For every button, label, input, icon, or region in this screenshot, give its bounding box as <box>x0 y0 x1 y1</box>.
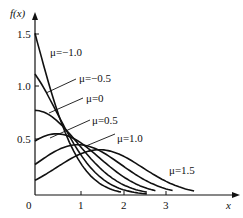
label-mu-minus-0.5: μ=−0.5 <box>79 72 112 84</box>
y-axis-label: f(x) <box>10 7 26 20</box>
label-mu-minus-1.0: μ=−1.0 <box>50 46 83 58</box>
chart: 0 1 2 3 x 0.5 1.0 1.5 f(x) μ=−1.0 μ=−0.5… <box>0 0 243 218</box>
x-tick-3: 3 <box>163 199 169 211</box>
x-tick-1: 1 <box>78 199 84 211</box>
x-axis-arrow-icon <box>232 192 240 198</box>
x-tick-2: 2 <box>121 199 127 211</box>
label-mu-1.0: μ=1.0 <box>117 132 143 144</box>
origin-label: 0 <box>26 199 32 211</box>
label-mu-1.5: μ=1.5 <box>169 164 195 176</box>
label-mu-0: μ=0 <box>86 92 104 104</box>
y-tick-1.0: 1.0 <box>17 80 31 92</box>
y-tick-0.5: 0.5 <box>17 133 31 145</box>
x-axis-label: x <box>225 199 231 211</box>
y-axis-arrow-icon <box>32 12 38 20</box>
y-tick-1.5: 1.5 <box>17 28 31 40</box>
label-mu-0.5: μ=0.5 <box>92 114 118 126</box>
